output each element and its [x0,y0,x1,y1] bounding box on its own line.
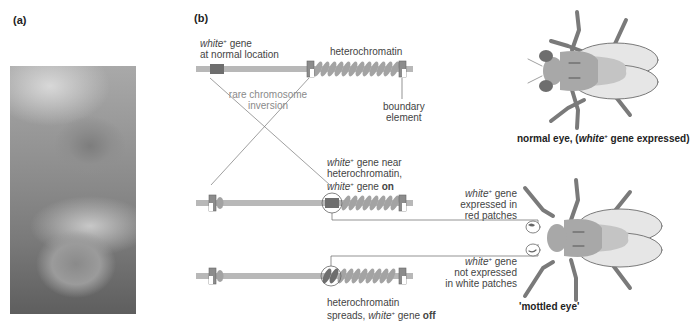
white-gene-on-label: white+ gene near heterochromatin, white+… [327,155,402,193]
mottled-fly [525,180,662,300]
not-expressed-white-patches-label: white+ gene not expressed in white patch… [440,254,517,289]
boundary-element-label: boundary element [383,101,425,123]
inversion-label: rare chromosome inversion [228,89,308,111]
expressed-red-patches-label: white+ gene expressed in red patches [455,186,517,221]
white-gene-off-label: heterochromatin spreads, white+ gene off [327,297,436,321]
white-gene-on [325,198,339,208]
normal-fly [528,12,658,128]
mottled-eye-caption: 'mottled eye' [519,301,579,312]
heterochromatin-label: heterochromatin [330,46,402,57]
normal-eye-caption: normal eye, (white+ gene expressed) [517,133,690,144]
white-gene-normal-label: white+ gene at normal location [200,36,279,60]
white-gene-normal [210,64,224,74]
